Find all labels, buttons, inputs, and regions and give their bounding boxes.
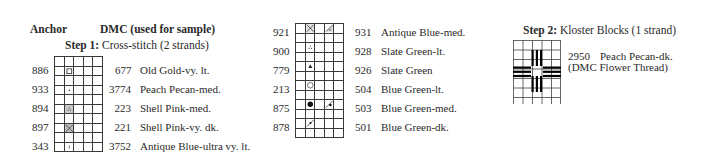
shaded-x-icon	[64, 123, 74, 133]
color-name: Antique Blue-med.	[381, 26, 465, 38]
color-name: Old Gold-vy. lt.	[140, 64, 210, 76]
dmc-number: 928	[355, 45, 372, 57]
anchor-number: 878	[273, 121, 290, 133]
color-name: Shell Pink-med.	[140, 102, 211, 114]
dmc-number: 3752	[107, 140, 131, 152]
anchor-number: 213	[273, 83, 290, 95]
diagonal-dot-icon	[305, 119, 315, 129]
dmc-column-header: DMC (used for sample)	[100, 23, 215, 35]
color-name: Slate Green-lt.	[381, 45, 445, 57]
color-name: Blue Green-med.	[381, 102, 457, 114]
color-name: Blue Green-lt.	[381, 83, 444, 95]
color-name: Peach Pecan-med.	[140, 83, 221, 95]
dmc-number: 931	[355, 26, 372, 38]
color-name: Slate Green	[381, 64, 433, 76]
dmc-number: 503	[355, 102, 372, 114]
dmc-number: 223	[107, 102, 131, 114]
dmc-number: 504	[355, 83, 372, 95]
step1-text: Cross-stitch (2 strands)	[102, 39, 209, 51]
kloster-thread-note: (DMC Flower Thread)	[568, 61, 668, 73]
filled-triangle-icon	[305, 62, 315, 72]
middle-symbol-grid	[295, 23, 344, 138]
kloster-block-diagram	[513, 40, 561, 104]
open-circle-icon	[305, 81, 315, 91]
dmc-number: 501	[355, 121, 372, 133]
dmc-number: 221	[107, 121, 131, 133]
dmc-number: 677	[115, 64, 131, 76]
step1-heading: Step 1: Cross-stitch (2 strands)	[65, 39, 209, 51]
step2-heading: Step 2: Kloster Blocks (1 strand)	[523, 24, 676, 36]
shaded-dots-icon	[64, 104, 74, 114]
step1-prefix: Step 1:	[65, 39, 99, 51]
filled-circle-icon	[305, 100, 315, 110]
anchor-number: 897	[32, 121, 49, 133]
step2-text: Kloster Blocks (1 strand)	[560, 24, 676, 36]
x-icon	[305, 24, 315, 34]
step2-prefix: Step 2:	[523, 24, 557, 36]
anchor-number: 779	[273, 64, 290, 76]
dmc-number: 926	[355, 64, 372, 76]
anchor-number: 886	[32, 64, 49, 76]
dot-icon	[64, 85, 74, 95]
diagonal-dot-icon	[324, 100, 334, 110]
three-dots-icon	[305, 43, 315, 53]
color-name: Shell Pink-vy. dk.	[140, 121, 219, 133]
anchor-number: 921	[273, 26, 290, 38]
half-triangle-icon	[324, 24, 334, 34]
anchor-number: 894	[32, 102, 49, 114]
dmc-number: 3774	[107, 83, 131, 95]
anchor-number: 900	[273, 45, 290, 57]
color-name: Blue Green-dk.	[381, 121, 449, 133]
color-name: Antique Blue-ultra vy. lt.	[140, 140, 250, 152]
tick-icon	[64, 142, 74, 152]
anchor-number: 343	[32, 140, 49, 152]
open-square-icon	[64, 66, 74, 76]
left-symbol-grid	[54, 56, 103, 152]
anchor-number: 875	[273, 102, 290, 114]
anchor-number: 933	[32, 83, 49, 95]
anchor-column-header: Anchor	[30, 23, 67, 35]
